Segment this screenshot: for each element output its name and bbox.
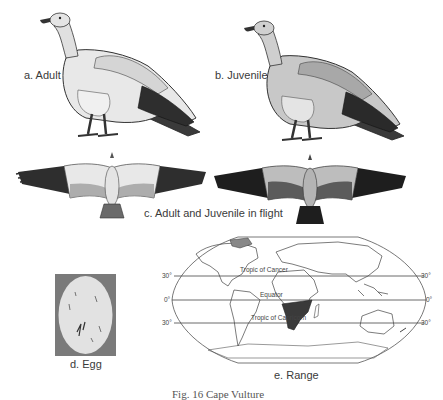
range-map <box>168 234 430 366</box>
lat-0-left-label: 0° <box>164 296 170 303</box>
vulture-perched-icon <box>244 20 414 142</box>
panel-label-range: e. Range <box>274 369 319 381</box>
panel-label-juvenile: b. Juvenile <box>215 69 268 81</box>
lat-30n-left-label: 30° <box>162 272 172 279</box>
world-map-icon <box>168 234 430 366</box>
juvenile-vulture-illustration <box>244 20 414 142</box>
lat-30s-right-label: 30° <box>421 319 431 326</box>
tropic-of-capricorn-label: Tropic of Capricorn <box>251 314 306 321</box>
tropic-of-cancer-label: Tropic of Cancer <box>240 266 288 273</box>
lat-0-right-label: 0° <box>426 296 432 303</box>
figure-caption: Fig. 16 Cape Vulture <box>172 388 264 400</box>
lat-30s-left-label: 30° <box>162 319 172 326</box>
lat-30n-right-label: 30° <box>421 272 431 279</box>
egg-icon <box>55 274 116 356</box>
adult-vulture-illustration <box>38 10 208 138</box>
panel-label-flight: c. Adult and Juvenile in flight <box>144 207 283 219</box>
vulture-perched-icon <box>38 10 208 138</box>
panel-label-adult: a. Adult <box>24 69 61 81</box>
equator-label: Equator <box>260 291 283 298</box>
egg-illustration <box>55 274 116 356</box>
panel-label-egg: d. Egg <box>70 358 102 370</box>
